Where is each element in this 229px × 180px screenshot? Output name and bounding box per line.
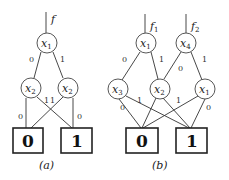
output-label-f2: f2 bbox=[190, 20, 200, 34]
node-a2: x2 bbox=[21, 78, 41, 98]
edge-a1-a2 bbox=[34, 52, 41, 78]
diagram-a: f 0 1 0 1 1 0 x1 x2 x2 0 bbox=[13, 12, 92, 172]
edge-label: 1 bbox=[60, 55, 65, 64]
node-b5: x1 bbox=[195, 79, 215, 99]
edge-label: 1 bbox=[159, 55, 164, 64]
node-b3: x3 bbox=[108, 79, 128, 99]
output-label-f: f bbox=[50, 13, 57, 26]
edge-label: 1 bbox=[202, 55, 207, 64]
node-a3: x2 bbox=[58, 78, 78, 98]
node-b1: x1 bbox=[136, 33, 156, 53]
caption-b: (b) bbox=[152, 159, 168, 172]
terminal-b-1: 1 bbox=[176, 128, 207, 153]
edge-label: 0 bbox=[29, 55, 34, 64]
edge-label: 1 bbox=[44, 96, 49, 105]
edge-label: 0 bbox=[178, 64, 183, 73]
edge-label: 0 bbox=[77, 112, 82, 121]
terminal-a-0: 0 bbox=[13, 128, 43, 153]
node-b2: x4 bbox=[176, 33, 196, 53]
edge-label: 1 bbox=[50, 96, 55, 105]
edge-b5-t0 bbox=[143, 96, 198, 128]
svg-text:0: 0 bbox=[136, 131, 148, 151]
terminal-a-1: 1 bbox=[61, 128, 92, 153]
svg-text:0: 0 bbox=[22, 131, 34, 151]
terminal-b-0: 0 bbox=[126, 128, 158, 153]
output-label-f1: f1 bbox=[149, 20, 159, 34]
edge-label: 1 bbox=[137, 96, 142, 105]
bdd-figure: f 0 1 0 1 1 0 x1 x2 x2 0 bbox=[0, 0, 229, 180]
diagram-b: f1 f2 0 1 0 1 0 1 1 0 x1 x4 bbox=[108, 14, 215, 172]
edge-label: 0 bbox=[206, 103, 211, 112]
edge-b2-b5 bbox=[191, 52, 202, 80]
node-a1: x1 bbox=[37, 33, 57, 53]
edge-label: 1 bbox=[176, 96, 181, 105]
caption-a: (a) bbox=[39, 159, 54, 172]
svg-text:1: 1 bbox=[186, 131, 198, 151]
edge-b4-t0 bbox=[142, 98, 156, 128]
edge-b5-t1 bbox=[191, 99, 205, 128]
edge-b1-b4 bbox=[151, 52, 158, 79]
edge-label: 0 bbox=[120, 103, 125, 112]
edge-label: 0 bbox=[122, 55, 127, 64]
svg-text:1: 1 bbox=[71, 131, 83, 151]
node-b4: x2 bbox=[150, 79, 170, 99]
edge-label: 0 bbox=[18, 112, 23, 121]
